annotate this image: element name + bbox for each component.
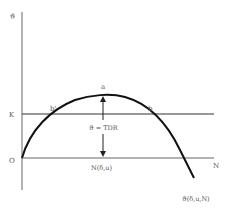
peak-x-label: N(δ,u) [91,164,112,172]
y-axis-label: ϑ [10,13,15,21]
left-intersection-label: b' [50,105,56,113]
arrow-label: ϑ = TDR [89,124,119,132]
peak-label: a [101,83,105,91]
origin-label: O [9,157,15,165]
right-intersection-label: b [148,105,153,113]
k-line-label: K [9,111,15,119]
diagram-canvas: ϑ K O N a b' b ϑ = TDR N(δ,u) ϑ(δ,u,N) [0,0,230,210]
x-axis-label: N [213,162,219,170]
curve-label: ϑ(δ,u,N) [182,195,210,203]
